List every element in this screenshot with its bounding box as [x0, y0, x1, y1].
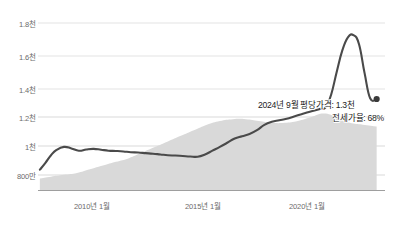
- y-tick-800: 800만: [17, 170, 36, 181]
- x-tick-2015: 2015년 1월: [185, 200, 221, 211]
- y-tick-1800: 1.8천: [19, 18, 36, 29]
- y-tick-1400: 1.4천: [19, 84, 36, 95]
- price-annotation: 2024년 9월 평당가격: 1.3천: [258, 98, 355, 110]
- price-end-marker: [374, 96, 380, 102]
- x-tick-2010: 2010년 1월: [74, 200, 110, 211]
- jeonse-ratio-annotation: 전세가율: 68%: [332, 111, 384, 123]
- y-tick-1000: 1천: [25, 141, 36, 152]
- y-tick-1600: 1.6천: [19, 51, 36, 62]
- price-jeonse-ratio-chart: 1.8천 1.6천 1.4천 1.2천 1천 800만 2010년 1월 201…: [0, 0, 396, 225]
- x-tick-2020: 2020년 1월: [289, 200, 325, 211]
- y-tick-1200: 1.2천: [19, 112, 36, 123]
